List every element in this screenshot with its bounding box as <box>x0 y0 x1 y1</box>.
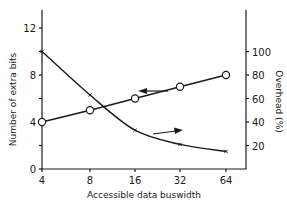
circle-marker <box>176 83 183 90</box>
x-tick-label: 32 <box>174 175 187 186</box>
series-group <box>38 50 229 153</box>
y2-tick-label: 60 <box>252 94 265 105</box>
y2-tick-label: 40 <box>252 117 265 128</box>
x-tick-label: 8 <box>87 175 93 186</box>
circle-marker <box>131 95 138 102</box>
y2-tick-label: 100 <box>252 47 271 58</box>
y-axis-label: Number of extra bits <box>8 53 18 147</box>
y2-axis-label: Overhead (%) <box>274 70 284 132</box>
y2-tick-label: 80 <box>252 70 265 81</box>
right-arrow-icon <box>153 131 176 134</box>
cross-marker <box>88 93 91 96</box>
y-tick-label: 8 <box>30 70 36 81</box>
right-arrowhead-icon <box>174 128 183 135</box>
circle-marker <box>38 118 45 125</box>
labels: 481632640481220406080100Accessible data … <box>8 23 284 200</box>
y-tick-label: 0 <box>30 164 36 175</box>
y-tick-label: 12 <box>23 23 36 34</box>
x-tick-label: 16 <box>129 175 142 186</box>
left-arrowhead-icon <box>138 88 147 94</box>
x-tick-label: 64 <box>220 175 233 186</box>
x-tick-label: 4 <box>39 175 45 186</box>
circle-marker <box>86 107 93 114</box>
y2-tick-label: 20 <box>252 141 265 152</box>
circle-marker <box>222 71 229 78</box>
chart: 481632640481220406080100Accessible data … <box>0 0 287 209</box>
x-axis-label: Accessible data buswidth <box>87 190 201 200</box>
y-tick-label: 4 <box>30 117 36 128</box>
